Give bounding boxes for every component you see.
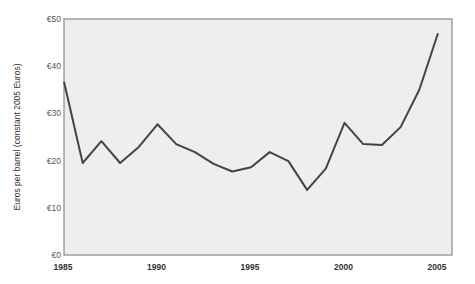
x-tick-label: 2000 xyxy=(334,262,353,272)
line-chart: €0€10€20€30€40€50 19851990199520002005 E… xyxy=(0,0,475,284)
y-tick-label: €50 xyxy=(47,14,61,24)
x-tick-label: 1995 xyxy=(241,262,260,272)
y-axis-label: Euros per barrel (constant 2005 Euros) xyxy=(12,63,22,210)
x-tick-label: 2005 xyxy=(428,262,447,272)
y-tick-label: €20 xyxy=(47,156,61,166)
x-tick-label: 1990 xyxy=(147,262,166,272)
plot-area xyxy=(64,19,452,255)
y-tick-label: €40 xyxy=(47,61,61,71)
y-tick-label: €30 xyxy=(47,108,61,118)
x-tick-label: 1985 xyxy=(54,262,73,272)
y-tick-label: €0 xyxy=(52,250,62,260)
y-axis-ticks: €0€10€20€30€40€50 xyxy=(47,14,61,260)
y-tick-label: €10 xyxy=(47,203,61,213)
x-axis-ticks: 19851990199520002005 xyxy=(54,262,447,272)
